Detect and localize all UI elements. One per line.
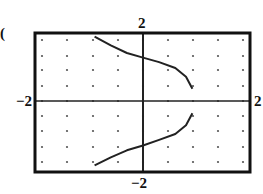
- graph-plot: [0, 0, 263, 194]
